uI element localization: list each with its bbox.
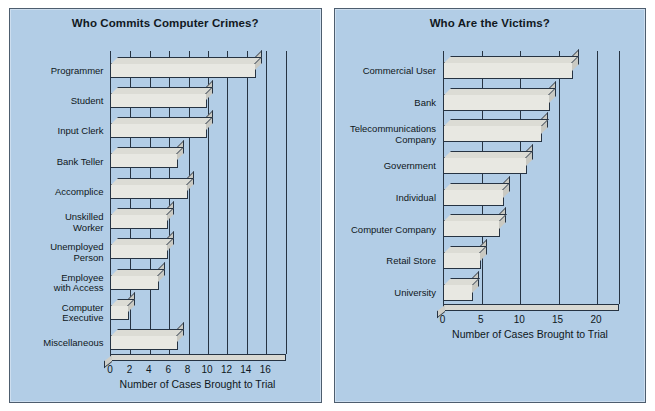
bar — [110, 184, 188, 199]
category-label: Unemployed Person — [12, 242, 104, 263]
bar — [110, 93, 207, 108]
x-tick-label: 10 — [505, 314, 533, 325]
bar-top-face — [444, 119, 549, 126]
category-label: Accomplice — [12, 187, 104, 198]
x-tick-label: 15 — [544, 314, 572, 325]
bar-top-face — [444, 278, 480, 285]
figure-sheet: Who Commits Computer Crimes? ProgrammerS… — [0, 0, 655, 411]
bar — [110, 305, 129, 320]
category-label: Student — [12, 96, 104, 107]
bar-top-face — [111, 329, 184, 336]
category-label: Unskilled Worker — [12, 212, 104, 233]
bar-top-face — [444, 151, 533, 158]
gridline — [597, 51, 598, 304]
bar-top-face — [111, 208, 174, 215]
bar — [110, 214, 168, 229]
bar — [443, 284, 474, 301]
bar — [443, 157, 527, 174]
category-label: Computer Executive — [12, 303, 104, 324]
bar — [443, 252, 481, 269]
plot-area-right: Commercial UserBankTelecommunications Co… — [335, 9, 646, 402]
category-label: Bank — [328, 98, 436, 109]
bar — [443, 94, 550, 111]
bar — [443, 220, 501, 237]
category-label: Government — [328, 161, 436, 172]
category-label: Miscellaneous — [12, 338, 104, 349]
category-label: Bank Teller — [12, 157, 104, 168]
bar-top-face — [444, 88, 556, 95]
x-axis-title: Number of Cases Brought to Trial — [70, 378, 325, 390]
bar — [443, 62, 573, 79]
bar — [110, 153, 178, 168]
gridline — [247, 51, 248, 354]
bar — [443, 189, 504, 206]
bar-top-face — [111, 269, 165, 276]
gridline — [266, 51, 267, 354]
bar-top-face — [111, 178, 194, 185]
bar-top-face — [111, 117, 213, 124]
category-label: Retail Store — [328, 256, 436, 267]
bar-top-face — [111, 57, 262, 64]
bar-top-face — [111, 87, 213, 94]
axis-baseline — [110, 354, 286, 361]
axis-baseline — [443, 304, 619, 311]
category-label: Input Clerk — [12, 126, 104, 137]
category-label: Individual — [328, 193, 436, 204]
category-label: Commercial User — [328, 66, 436, 77]
x-tick-label: 5 — [467, 314, 495, 325]
gridline-right-edge — [286, 51, 287, 354]
bar-top-face — [444, 214, 507, 221]
gridline-right-edge — [619, 51, 620, 304]
x-tick-label: 16 — [251, 364, 279, 375]
category-label: Programmer — [12, 66, 104, 77]
bar — [110, 335, 178, 350]
bar — [110, 63, 256, 78]
x-axis-title: Number of Cases Brought to Trial — [403, 328, 655, 340]
gridline — [227, 51, 228, 354]
chart-panel-who-are-victims: Who Are the Victims? Commercial UserBank… — [334, 8, 647, 403]
bar — [110, 244, 168, 259]
bar-top-face — [444, 246, 487, 253]
category-label: Telecommunications Company — [328, 124, 436, 145]
bar — [110, 275, 159, 290]
bar — [110, 123, 207, 138]
category-label: Employee with Access — [12, 273, 104, 294]
bar-top-face — [111, 147, 184, 154]
category-label: Computer Company — [328, 225, 436, 236]
x-tick-label: 0 — [429, 314, 457, 325]
x-tick-label: 20 — [582, 314, 610, 325]
bar-top-face — [111, 238, 174, 245]
gridline — [559, 51, 560, 304]
chart-panel-who-commits: Who Commits Computer Crimes? ProgrammerS… — [9, 8, 322, 403]
bar-top-face — [444, 183, 510, 190]
plot-area-left: ProgrammerStudentInput ClerkBank TellerA… — [10, 9, 321, 402]
bar — [443, 125, 543, 142]
bar-top-face — [444, 56, 579, 63]
category-label: University — [328, 288, 436, 299]
